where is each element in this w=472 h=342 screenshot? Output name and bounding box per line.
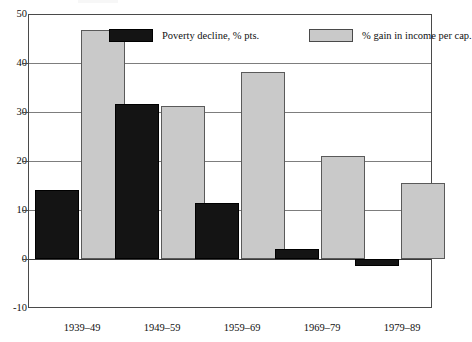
y-tick-label-minus10: -10 <box>1 303 27 314</box>
plot-area: Poverty decline, % pts. % gain in income… <box>28 14 432 308</box>
dark-swatch-icon <box>109 29 153 42</box>
bar-poverty-1949-59 <box>115 104 159 259</box>
bar-poverty-1959-69 <box>195 203 239 259</box>
bar-poverty-1939-49 <box>35 190 79 259</box>
bar-poverty-1969-79 <box>275 249 319 259</box>
chart-legend: Poverty decline, % pts. % gain in income… <box>109 29 472 42</box>
light-swatch-icon <box>309 29 353 42</box>
bar-income-1959-69 <box>241 72 285 259</box>
y-tick-label-50: 50 <box>1 9 27 20</box>
legend-label-poverty-decline: Poverty decline, % pts. <box>162 30 259 41</box>
bar-income-1979-89 <box>401 183 445 259</box>
x-tick-label-1979-89: 1979–89 <box>354 322 450 333</box>
bar-income-1969-79 <box>321 156 365 259</box>
legend-item-income-gain: % gain in income per cap. <box>309 29 472 42</box>
bar-poverty-1979-89 <box>355 259 399 266</box>
clipped-artifact <box>78 0 118 3</box>
legend-item-poverty-decline: Poverty decline, % pts. <box>109 29 259 42</box>
legend-label-income-gain: % gain in income per cap. <box>362 30 472 41</box>
